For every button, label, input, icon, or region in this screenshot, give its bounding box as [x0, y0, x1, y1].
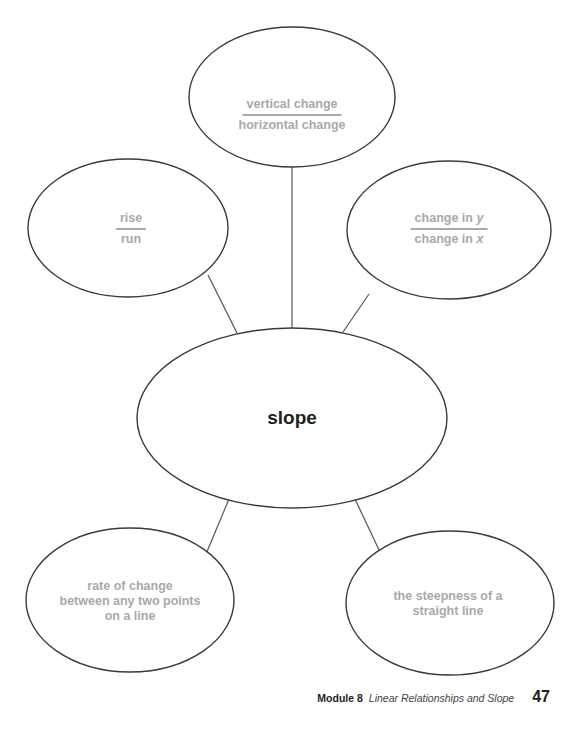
text-line: on a line — [60, 609, 201, 624]
node-right-text: change in y change in x — [411, 211, 488, 247]
center-label: slope — [267, 407, 317, 429]
fraction-numerator: change in y — [411, 211, 488, 230]
node-bottom-left-text: rate of change between any two points on… — [60, 579, 201, 624]
fraction-numerator: vertical change — [242, 97, 341, 116]
connector-right — [343, 294, 369, 332]
node-bottom-right-text: the steepness of a straight line — [393, 589, 502, 619]
module-title: Linear Relationships and Slope — [369, 692, 514, 704]
fraction-denominator: run — [117, 230, 145, 247]
node-left-text: rise run — [116, 211, 146, 247]
connector-bottom-left — [206, 499, 229, 554]
connector-bottom-right — [355, 499, 380, 552]
text-line: straight line — [393, 604, 502, 619]
text-line: the steepness of a — [393, 589, 502, 604]
fraction-vertical-horizontal: vertical change horizontal change — [235, 97, 350, 133]
fraction-denominator: horizontal change — [235, 116, 350, 133]
fraction-rise-run: rise run — [116, 211, 146, 247]
fraction-numerator: rise — [116, 211, 146, 230]
fraction-change-y-x: change in y change in x — [411, 211, 488, 247]
node-top-text: vertical change horizontal change — [235, 97, 350, 133]
text-line: between any two points — [60, 594, 201, 609]
variable-x: x — [476, 232, 483, 246]
variable-y: y — [476, 211, 483, 225]
page-number: 47 — [532, 688, 550, 706]
text-line: rate of change — [60, 579, 201, 594]
connector-left — [208, 275, 237, 333]
page-footer: Module 8 Linear Relationships and Slope … — [317, 688, 550, 706]
module-label: Module 8 — [317, 692, 363, 704]
fraction-denominator: change in x — [411, 230, 488, 247]
